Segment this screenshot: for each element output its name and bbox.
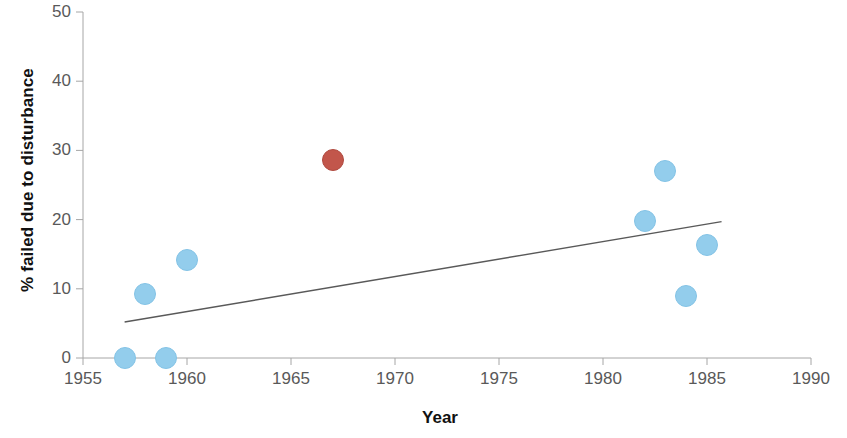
scatter-chart: % failed due to disturbance 01020304050 … [0,0,847,438]
data-point [322,149,344,171]
trendline [125,222,722,322]
data-point [176,249,198,271]
trendline-segment [125,222,722,322]
data-point [114,347,136,369]
axis-lines [83,12,811,358]
x-axis-title: Year [0,408,847,428]
data-point [634,210,656,232]
plot-area [0,0,847,438]
